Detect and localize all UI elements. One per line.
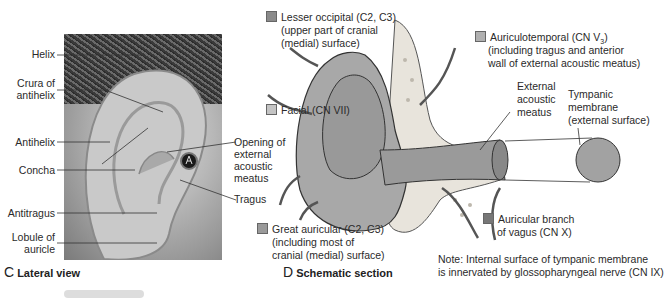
- eam-text-1: External: [517, 80, 556, 93]
- vagus-text-1: Auricular branch: [498, 213, 574, 225]
- lesser-occipital-swatch: [266, 11, 277, 22]
- lesser-occipital-text-1: Lesser occipital (C2, C3): [281, 11, 396, 23]
- lesser-occipital-text-3: (medial) surface): [281, 37, 360, 50]
- tympanic-text-1: Tympanic: [568, 88, 613, 101]
- facial-text: Facial (CN VII): [281, 104, 350, 116]
- note-text-2: is innervated by glossopharyngeal nerve …: [438, 266, 664, 279]
- legend-great-auricular: Great auricular (C2, C3): [257, 223, 384, 236]
- legend-vagus: Auricular branch: [483, 213, 574, 226]
- auriculotemporal-close: ): [604, 31, 608, 43]
- auriculotemporal-swatch: [475, 31, 486, 42]
- auriculotemporal-text-1: Auriculotemporal (CN V: [490, 31, 600, 43]
- tympanic-text-2: membrane: [568, 101, 618, 114]
- auriculotemporal-text-3: wall of external acoustic meatus): [488, 57, 640, 70]
- lesser-occipital-text-2: (upper part of cranial: [281, 24, 378, 37]
- tympanic-text-3: (external surface): [568, 114, 650, 127]
- great-auricular-swatch: [257, 223, 268, 234]
- great-auricular-text-1: Great auricular (C2, C3): [272, 223, 384, 235]
- note-text-1: Note: Internal surface of tympanic membr…: [438, 253, 648, 266]
- eam-text-3: meatus: [517, 106, 551, 119]
- vagus-text-2: of vagus (CN X): [497, 226, 572, 239]
- great-auricular-text-2: (including most of: [272, 236, 354, 249]
- vagus-swatch: [483, 213, 494, 224]
- great-auricular-text-3: cranial (medial) surface): [272, 249, 385, 262]
- eam-text-2: acoustic: [517, 93, 556, 106]
- auriculotemporal-text-2: (including tragus and anterior: [488, 44, 624, 57]
- caption-d: DSchematic section: [283, 264, 393, 280]
- legend-facial: Facial (CN VII): [266, 104, 350, 117]
- caption-d-text: Schematic section: [296, 267, 393, 279]
- caption-d-letter: D: [283, 264, 293, 280]
- facial-swatch: [266, 104, 277, 115]
- legend-lesser-occipital: Lesser occipital (C2, C3): [266, 11, 396, 24]
